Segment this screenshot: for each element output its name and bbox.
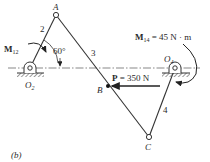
ground-support-o4 [162, 62, 190, 77]
linkage-diagram: A 2 3 4 60° B C O2 O4 M12 M14 = 45 N · m… [0, 0, 210, 162]
link-4 [149, 68, 175, 137]
label-a: A [52, 2, 59, 12]
link-2 [30, 15, 56, 68]
label-link-3: 3 [91, 48, 96, 58]
joint-a [53, 12, 58, 17]
label-b: B [97, 85, 103, 95]
label-angle: 60° [53, 46, 66, 56]
label-link-4: 4 [163, 105, 168, 115]
label-force-p: P = 350 N [112, 73, 150, 83]
point-b [106, 84, 110, 88]
label-o2: O2 [25, 80, 35, 91]
label-c: C [145, 142, 152, 152]
ground-support-o2 [17, 62, 44, 77]
label-moment-m12: M12 [4, 44, 19, 55]
joint-c [146, 134, 151, 139]
label-link-2: 2 [40, 24, 45, 34]
figure-caption: (b) [11, 150, 22, 160]
label-o4: O4 [164, 54, 174, 65]
label-moment-m14: M14 = 45 N · m [135, 32, 191, 43]
moment-m12-arrow [28, 43, 46, 52]
